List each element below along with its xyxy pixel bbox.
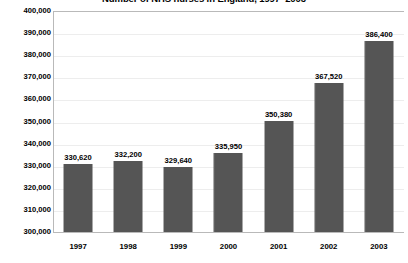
y-axis-tick-label: 360,000 <box>3 95 51 103</box>
bar-1998[interactable] <box>114 161 143 232</box>
chart-title: Number of NHS nurses in England, 1997–20… <box>0 0 408 4</box>
bar-2000[interactable] <box>214 153 243 232</box>
bar-slot: 386,400 <box>354 11 404 232</box>
x-axis-tick-label-2000: 2000 <box>203 242 253 251</box>
x-axis-tick-label-2002: 2002 <box>304 242 354 251</box>
x-axis: 1997199819992000200120022003 <box>53 233 404 263</box>
bar-slot: 350,380 <box>254 11 304 232</box>
bar-value-label: 335,950 <box>215 143 242 151</box>
bar-slot: 329,640 <box>153 11 203 232</box>
bar-2001[interactable] <box>264 121 293 232</box>
y-axis-tick-label: 400,000 <box>3 7 51 15</box>
bar-1997[interactable] <box>64 164 93 232</box>
bar-value-label: 332,200 <box>114 151 141 159</box>
x-axis-tick-label-2003: 2003 <box>354 242 404 251</box>
bar-slot: 335,950 <box>203 11 253 232</box>
y-axis-tick-label: 380,000 <box>3 51 51 59</box>
y-axis-tick-label: 350,000 <box>3 118 51 126</box>
x-axis-tick-label-1998: 1998 <box>103 242 153 251</box>
bar-value-label: 329,640 <box>165 157 192 165</box>
y-axis-tick-label: 320,000 <box>3 184 51 192</box>
y-axis-tick-label: 370,000 <box>3 73 51 81</box>
x-axis-tick-label-1999: 1999 <box>153 242 203 251</box>
y-axis: 400,000390,000380,000370,000360,000350,0… <box>0 11 51 233</box>
y-axis-tick-label: 390,000 <box>3 29 51 37</box>
bar-slot: 367,520 <box>304 11 354 232</box>
y-axis-tick-label: 330,000 <box>3 162 51 170</box>
bar-2003[interactable] <box>364 41 393 232</box>
bar-chart: Number of NHS nurses in England, 1997–20… <box>0 0 408 263</box>
bar-value-label: 350,380 <box>265 111 292 119</box>
bars-layer: 330,620332,200329,640335,950350,380367,5… <box>53 11 404 232</box>
bar-slot: 332,200 <box>103 11 153 232</box>
x-axis-tick-label-1997: 1997 <box>53 242 103 251</box>
y-axis-tick-label: 300,000 <box>3 228 51 236</box>
bar-value-label: 367,520 <box>315 73 342 81</box>
y-axis-tick-label: 340,000 <box>3 140 51 148</box>
bar-slot: 330,620 <box>53 11 103 232</box>
bar-value-label: 330,620 <box>64 154 91 162</box>
y-axis-tick-label: 310,000 <box>3 206 51 214</box>
bar-value-label: 386,400 <box>365 31 392 39</box>
bar-2002[interactable] <box>314 83 343 232</box>
bar-1999[interactable] <box>164 167 193 233</box>
x-axis-tick-label-2001: 2001 <box>254 242 304 251</box>
